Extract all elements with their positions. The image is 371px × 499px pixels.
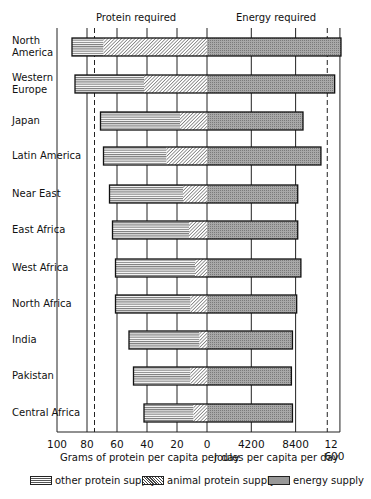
protein-tick-label: 60	[110, 438, 123, 450]
energy-segment	[207, 259, 301, 277]
protein-tick-label: 0	[204, 438, 211, 450]
other-protein-segment	[116, 259, 196, 277]
energy-segment	[207, 331, 292, 349]
other-protein-segment	[144, 404, 194, 422]
energy-required-label: Energy required	[236, 12, 316, 23]
category-label: India	[12, 334, 37, 346]
category-label: Central Africa	[12, 407, 80, 419]
chart-canvas	[0, 0, 371, 499]
other-protein-segment	[110, 185, 184, 203]
protein-tick-label: 100	[47, 438, 67, 450]
bar-japan	[101, 112, 304, 130]
legend-other-protein: other protein supply	[30, 475, 156, 486]
energy-segment	[207, 185, 298, 203]
other-protein-segment	[104, 147, 167, 165]
bar-central-africa	[144, 404, 292, 422]
other-protein-segment	[113, 221, 190, 239]
energy-axis-title: Joules per capita per day	[214, 452, 339, 463]
category-label: Japan	[12, 115, 40, 127]
protein-tick-label: 20	[170, 438, 183, 450]
energy-tick-label: 4200	[238, 438, 265, 450]
animal-protein-segment	[195, 259, 207, 277]
bar-north-america	[72, 38, 341, 56]
bar-west-africa	[116, 259, 301, 277]
energy-segment	[207, 75, 335, 93]
category-label: Pakistan	[12, 370, 54, 382]
energy-segment	[207, 38, 341, 56]
energy-segment	[207, 295, 297, 313]
other-protein-segment	[134, 367, 191, 385]
animal-protein-segment	[200, 331, 208, 349]
category-label: North Africa	[12, 298, 72, 310]
protein-tick-label: 40	[140, 438, 153, 450]
animal-protein-segment	[191, 367, 208, 385]
animal-protein-segment	[144, 75, 207, 93]
stipple-swatch-icon	[268, 476, 290, 485]
animal-protein-segment	[191, 295, 208, 313]
other-protein-segment	[72, 38, 104, 56]
legend-label: energy supply	[293, 475, 364, 486]
bars-group	[72, 38, 341, 422]
category-label: West Africa	[12, 262, 68, 274]
bar-india	[129, 331, 292, 349]
horizontal-lines-swatch-icon	[30, 476, 52, 485]
protein-tick-label: 80	[80, 438, 93, 450]
diagonal-hatch-swatch-icon	[142, 476, 164, 485]
other-protein-segment	[129, 331, 200, 349]
bar-pakistan	[134, 367, 292, 385]
category-label: NorthAmerica	[12, 35, 53, 59]
legend-animal-protein: animal protein supply	[142, 475, 276, 486]
category-label: WesternEurope	[12, 72, 53, 96]
bar-east-africa	[113, 221, 298, 239]
animal-protein-segment	[180, 112, 207, 130]
energy-segment	[207, 221, 298, 239]
other-protein-segment	[116, 295, 191, 313]
legend-label: animal protein supply	[167, 475, 276, 486]
bar-latin-america	[104, 147, 321, 165]
animal-protein-segment	[183, 185, 207, 203]
energy-segment	[207, 147, 321, 165]
bar-near-east	[110, 185, 298, 203]
bar-western-europe	[75, 75, 335, 93]
energy-tick-label: 8400	[282, 438, 309, 450]
energy-segment	[207, 112, 303, 130]
animal-protein-segment	[194, 404, 208, 422]
legend-energy: energy supply	[268, 475, 364, 486]
animal-protein-segment	[189, 221, 207, 239]
protein-required-label: Protein required	[96, 12, 176, 23]
animal-protein-segment	[167, 147, 208, 165]
bar-north-africa	[116, 295, 297, 313]
category-label: Near East	[12, 188, 61, 200]
energy-segment	[207, 367, 291, 385]
animal-protein-segment	[104, 38, 208, 56]
energy-segment	[207, 404, 292, 422]
protein-axis-title: Grams of protein per capita per day	[60, 452, 240, 463]
other-protein-segment	[101, 112, 181, 130]
category-label: Latin America	[12, 150, 81, 162]
category-label: East Africa	[12, 224, 65, 236]
other-protein-segment	[75, 75, 144, 93]
